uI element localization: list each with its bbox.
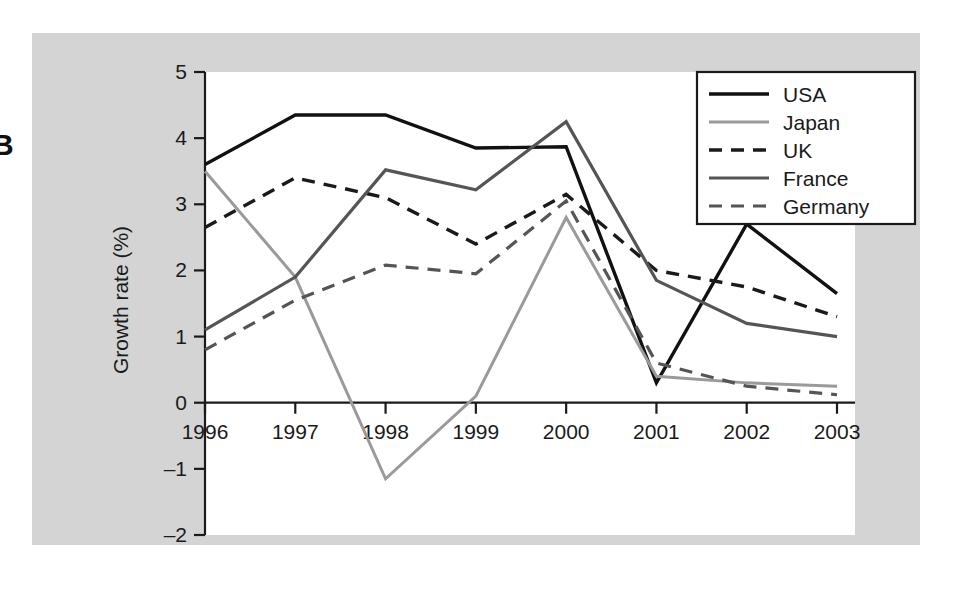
y-tick-label: 4 xyxy=(175,126,187,149)
x-tick-label: 2001 xyxy=(633,420,680,443)
y-tick-label: 3 xyxy=(175,192,187,215)
line-chart: –2–1012345199619971998199920002001200220… xyxy=(0,0,956,605)
y-tick-label: –2 xyxy=(164,523,187,546)
y-tick-label: 5 xyxy=(175,60,187,83)
x-tick-label: 1997 xyxy=(272,420,319,443)
y-axis-title: Growth rate (%) xyxy=(109,226,132,374)
legend-label-usa: USA xyxy=(783,83,826,106)
y-tick-label: 1 xyxy=(175,325,187,348)
x-tick-label: 2002 xyxy=(723,420,770,443)
chart-legend: USAJapanUKFranceGermany xyxy=(697,72,915,224)
figure-page: B –2–10123451996199719981999200020012002… xyxy=(0,0,956,605)
legend-label-france: France xyxy=(783,167,848,190)
x-tick-label: 2003 xyxy=(814,420,861,443)
legend-label-germany: Germany xyxy=(783,195,870,218)
x-tick-label: 1996 xyxy=(182,420,229,443)
legend-label-uk: UK xyxy=(783,139,812,162)
y-tick-label: 2 xyxy=(175,258,187,281)
y-axis-title-text: Growth rate (%) xyxy=(109,226,132,374)
legend-label-japan: Japan xyxy=(783,111,840,134)
x-tick-label: 2000 xyxy=(543,420,590,443)
y-tick-label: 0 xyxy=(175,391,187,414)
y-tick-label: –1 xyxy=(164,457,187,480)
x-tick-label: 1999 xyxy=(452,420,499,443)
